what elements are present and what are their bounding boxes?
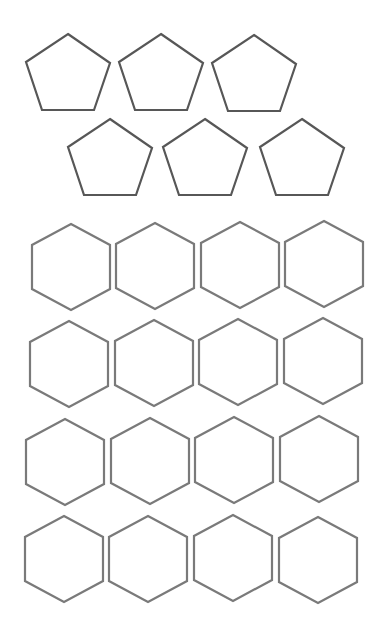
- hexagon-shape: [195, 417, 273, 503]
- hexagon-shape: [201, 222, 279, 308]
- hexagon-shape: [116, 223, 194, 309]
- hexagon-shape: [280, 416, 358, 502]
- pentagon-shape: [119, 34, 203, 110]
- hexagon-shape: [111, 418, 189, 504]
- hexagon-shape: [25, 516, 103, 602]
- hexagon-shape: [285, 221, 363, 307]
- hexagon-shape: [115, 320, 193, 406]
- hexagon-shape: [194, 515, 272, 601]
- pentagon-shape: [163, 119, 247, 195]
- hexagon-shape: [30, 321, 108, 407]
- pentagon-shape: [26, 34, 110, 110]
- polygon-diagram: [0, 0, 383, 632]
- hexagon-shape: [32, 224, 110, 310]
- pentagon-group: [26, 34, 344, 195]
- pentagon-shape: [68, 119, 152, 195]
- hexagon-shape: [109, 516, 187, 602]
- hexagon-shape: [26, 419, 104, 505]
- hexagon-group: [25, 221, 363, 603]
- hexagon-shape: [284, 318, 362, 404]
- pentagon-shape: [212, 35, 296, 111]
- hexagon-shape: [199, 319, 277, 405]
- hexagon-shape: [279, 517, 357, 603]
- pentagon-shape: [260, 119, 344, 195]
